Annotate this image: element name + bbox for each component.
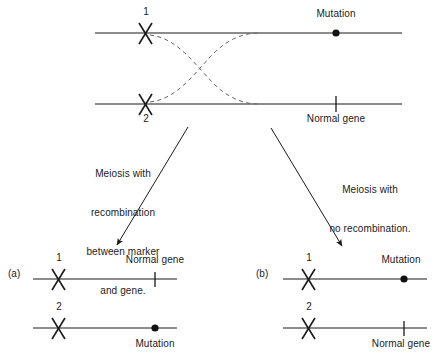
arrow-label-recombination: Meiosis with recombination between marke…	[58, 141, 188, 323]
recombination-diagram: 1 Mutation 2 Normal gene Meiosis with re…	[0, 0, 444, 357]
mutation-dot-icon-b1	[400, 275, 407, 282]
top-mutation-label: Mutation	[316, 7, 355, 20]
outcome-a-row1-marker-label: 1	[56, 252, 62, 263]
outcome-a-row1-locus-label: Normal gene	[126, 253, 184, 266]
panel-tag-a: (a)	[8, 268, 20, 279]
outcome-a-row2-marker-label: 2	[56, 301, 62, 312]
crossover-curve-up	[150, 33, 258, 102]
top-marker-label-2: 2	[143, 113, 149, 124]
crossover-curve-down	[150, 35, 258, 104]
outcome-b-row2-locus-label: Normal gene	[372, 337, 430, 350]
top-marker-label-1: 1	[143, 6, 149, 17]
mutation-dot-icon-top	[332, 29, 339, 36]
panel-tag-b: (b)	[256, 268, 268, 279]
arrow-label-recombination-line-2: recombination	[58, 206, 188, 219]
outcome-b-row1-locus-label: Mutation	[381, 253, 420, 266]
arrow-label-recombination-line-1: Meiosis with	[58, 167, 188, 180]
arrow-label-no-recombination-line-2: no recombination.	[300, 222, 440, 235]
arrow-label-no-recombination: Meiosis with no recombination.	[300, 157, 440, 261]
outcome-a-row2-locus-label: Mutation	[135, 337, 174, 350]
arrow-label-recombination-line-4: and gene.	[58, 284, 188, 297]
mutation-dot-icon-a2	[151, 324, 158, 331]
outcome-b-row1-marker-label: 1	[306, 252, 312, 263]
top-normal-gene-label: Normal gene	[307, 112, 365, 125]
outcome-b-row2-marker-label: 2	[306, 301, 312, 312]
arrow-label-no-recombination-line-1: Meiosis with	[300, 183, 440, 196]
